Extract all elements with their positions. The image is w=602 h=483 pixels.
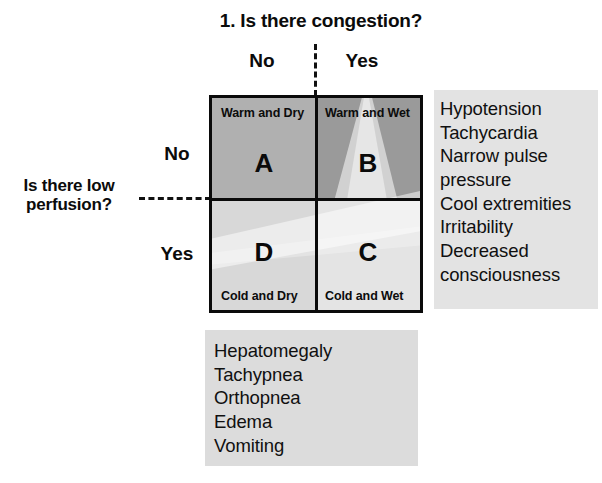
column-header-yes: Yes xyxy=(332,50,392,72)
quadrant-a-warm-and-dry[interactable]: Warm and Dry A xyxy=(212,98,316,199)
panel-right-line: Hypotension xyxy=(440,97,594,121)
diagram-canvas: 1. Is there congestion? No Yes Is there … xyxy=(0,0,602,483)
quadrant-matrix: Warm and Dry A Warm and Wet B D Cold and… xyxy=(209,95,423,313)
panel-right-line: Tachycardia xyxy=(440,121,594,145)
quadrant-c-label: Cold and Wet xyxy=(325,289,414,303)
panel-bottom-line: Edema xyxy=(214,410,414,434)
panel-right-line: pressure xyxy=(440,168,594,192)
horizontal-dashed-divider xyxy=(139,197,211,200)
quadrant-b-letter: B xyxy=(316,148,420,179)
panel-bottom-line: Orthopnea xyxy=(214,386,414,410)
left-question-perfusion: Is there low perfusion? xyxy=(2,176,136,214)
panel-right-line: consciousness xyxy=(440,263,594,287)
vertical-dashed-divider xyxy=(314,44,317,96)
quadrant-d-letter: D xyxy=(212,237,316,268)
panel-bottom-line: Vomiting xyxy=(214,434,414,458)
left-question-line-1: Is there low xyxy=(23,176,114,195)
panel-right-line: Decreased xyxy=(440,239,594,263)
quadrant-c-letter: C xyxy=(316,237,420,268)
panel-bottom-line: Hepatomegaly xyxy=(214,339,414,363)
left-question-line-2: perfusion? xyxy=(26,195,112,214)
panel-right-line: Cool extremities xyxy=(440,192,594,216)
quadrant-d-label: Cold and Dry xyxy=(221,289,310,303)
row-header-yes: Yes xyxy=(150,243,204,265)
panel-right-line: Irritability xyxy=(440,215,594,239)
matrix-vertical-gridline xyxy=(315,98,318,310)
quadrant-c-cold-and-wet[interactable]: C Cold and Wet xyxy=(316,199,420,310)
quadrant-a-label: Warm and Dry xyxy=(221,106,310,120)
top-question-congestion: 1. Is there congestion? xyxy=(186,10,456,32)
panel-right-line: Narrow pulse xyxy=(440,144,594,168)
congestion-signs-panel: Hepatomegaly Tachypnea Orthopnea Edema V… xyxy=(205,330,418,466)
quadrant-d-cold-and-dry[interactable]: D Cold and Dry xyxy=(212,199,316,310)
matrix-horizontal-gridline xyxy=(212,198,420,201)
quadrant-b-label: Warm and Wet xyxy=(325,106,414,120)
panel-bottom-line: Tachypnea xyxy=(214,363,414,387)
quadrant-b-warm-and-wet[interactable]: Warm and Wet B xyxy=(316,98,420,199)
column-header-no: No xyxy=(232,50,292,72)
quadrant-a-letter: A xyxy=(212,148,316,179)
row-header-no: No xyxy=(150,143,204,165)
low-perfusion-signs-panel: Hypotension Tachycardia Narrow pulse pre… xyxy=(434,90,598,309)
